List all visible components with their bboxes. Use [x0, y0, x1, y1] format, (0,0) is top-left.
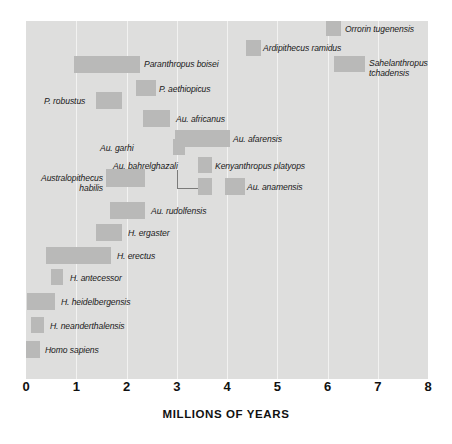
gridline-3 [177, 21, 178, 379]
range-bar [26, 341, 40, 358]
gridline-5 [277, 21, 278, 379]
x-tick-label-0: 0 [22, 379, 29, 394]
x-tick-label-4: 4 [223, 379, 230, 394]
connector-horizontal [177, 188, 198, 189]
species-label: Ardipithecus ramidus [263, 43, 341, 53]
gridline-6 [328, 21, 329, 379]
range-bar [246, 40, 261, 56]
species-label: Au. afarensis [233, 134, 282, 144]
range-bar [143, 110, 170, 127]
species-label: Orrorin tugenensis [345, 24, 414, 34]
gridline-2 [127, 21, 128, 379]
species-label: H. erectus [117, 251, 155, 261]
range-bar [198, 157, 212, 173]
gridline-4 [227, 21, 228, 379]
species-label: Au. anamensis [247, 182, 303, 192]
range-bar [136, 80, 156, 96]
species-label: Australopithecus habilis [31, 173, 103, 193]
x-tick-label-7: 7 [374, 379, 381, 394]
x-axis: 012345678 [0, 379, 452, 409]
range-bar [96, 92, 122, 109]
species-label: H. heidelbergensis [61, 297, 130, 307]
range-bar [110, 202, 145, 219]
x-tick-label-3: 3 [173, 379, 180, 394]
x-axis-title: MILLIONS OF YEARS [0, 408, 452, 420]
range-bar [334, 56, 365, 72]
hominin-timeline-chart: Orrorin tugenensisArdipithecus ramidusSa… [0, 0, 452, 444]
range-bar [74, 56, 140, 73]
species-label: Au. rudolfensis [151, 206, 206, 216]
species-label: Sahelanthropus tchadensis [369, 58, 428, 78]
range-bar [31, 317, 44, 333]
species-label: Kenyanthropus platyops [215, 161, 305, 171]
species-label: H. ergaster [128, 228, 169, 238]
range-bar [225, 178, 245, 195]
range-bar [173, 139, 185, 155]
x-tick-label-5: 5 [274, 379, 281, 394]
species-label: Au. garhi [100, 143, 134, 153]
range-bar [51, 269, 63, 285]
x-tick-label-6: 6 [324, 379, 331, 394]
species-label: Paranthropus boisei [144, 59, 219, 69]
range-bar [106, 169, 145, 187]
range-bar [198, 178, 212, 195]
x-tick-label-1: 1 [73, 379, 80, 394]
x-tick-label-2: 2 [123, 379, 130, 394]
range-bar [46, 247, 111, 264]
x-tick-label-8: 8 [424, 379, 431, 394]
range-bar [96, 224, 122, 241]
species-label: P. robustus [44, 96, 85, 106]
species-label: H. antecessor [70, 273, 122, 283]
range-bar [27, 293, 55, 310]
species-label: Au. bahrelghazali [113, 161, 178, 171]
species-label: Au. africanus [176, 114, 225, 124]
species-label: H. neanderthalensis [50, 321, 125, 331]
connector-vertical [177, 170, 178, 188]
species-label: Homo sapiens [45, 345, 99, 355]
range-bar [326, 21, 341, 36]
species-label: P. aethiopicus [159, 84, 210, 94]
